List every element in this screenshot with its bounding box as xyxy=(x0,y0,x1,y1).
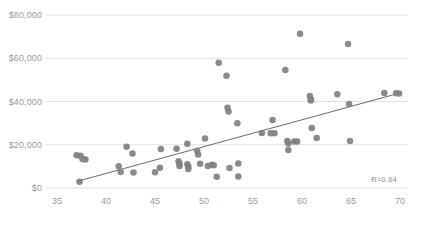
x-tick-label-0: 35 xyxy=(52,196,62,206)
data-point xyxy=(347,138,354,145)
data-point xyxy=(173,146,180,153)
data-point xyxy=(195,151,202,158)
data-point xyxy=(269,117,276,124)
data-point xyxy=(294,138,301,145)
data-point xyxy=(259,130,266,137)
y-tick-label-4: $80,000 xyxy=(0,10,42,20)
data-point xyxy=(82,156,89,163)
data-point xyxy=(157,164,164,171)
data-point xyxy=(346,101,353,108)
x-tick-label-5: 60 xyxy=(297,196,307,206)
x-tick-label-6: 65 xyxy=(346,196,356,206)
data-point xyxy=(226,165,233,172)
data-point xyxy=(285,140,292,147)
y-tick-label-0: $0 xyxy=(0,183,42,193)
y-tick-label-2: $40,000 xyxy=(0,97,42,107)
data-point xyxy=(271,130,278,137)
data-point xyxy=(345,41,352,48)
gridlines xyxy=(46,15,408,188)
correlation-annotation: R=0.64 xyxy=(371,175,397,184)
trendline-path xyxy=(77,92,402,181)
data-point xyxy=(334,91,341,98)
data-point xyxy=(184,140,191,147)
data-point xyxy=(235,173,242,180)
x-tick-label-1: 40 xyxy=(101,196,111,206)
data-point xyxy=(211,162,218,169)
data-point xyxy=(129,150,136,157)
data-point xyxy=(123,143,130,150)
data-points xyxy=(73,31,402,185)
trendline xyxy=(77,92,402,181)
data-point xyxy=(381,90,388,97)
x-tick-label-2: 45 xyxy=(150,196,160,206)
y-tick-label-1: $20,000 xyxy=(0,140,42,150)
data-point xyxy=(76,178,83,185)
data-point xyxy=(130,169,137,176)
data-point xyxy=(215,60,222,66)
x-tick-label-3: 50 xyxy=(199,196,209,206)
data-point xyxy=(313,135,320,142)
scatter-chart: $0$20,000$40,000$60,000$80,000 354045505… xyxy=(0,0,421,235)
data-point xyxy=(282,67,289,74)
data-point xyxy=(152,169,159,176)
data-point xyxy=(297,31,304,38)
data-point xyxy=(234,120,241,127)
data-point xyxy=(202,135,209,142)
data-point xyxy=(117,169,124,176)
data-point xyxy=(213,174,220,181)
x-tick-label-7: 70 xyxy=(395,196,405,206)
data-point xyxy=(176,163,183,170)
data-point xyxy=(185,166,192,173)
data-point xyxy=(223,73,230,80)
plot-area xyxy=(0,0,421,235)
data-point xyxy=(285,147,292,154)
y-tick-label-3: $60,000 xyxy=(0,53,42,63)
data-point xyxy=(235,160,242,167)
data-point xyxy=(396,90,403,97)
data-point xyxy=(308,97,315,104)
data-point xyxy=(309,125,316,132)
x-tick-label-4: 55 xyxy=(248,196,258,206)
data-point xyxy=(115,163,122,170)
data-point xyxy=(225,108,232,115)
data-point xyxy=(158,146,165,153)
data-point xyxy=(197,161,204,168)
